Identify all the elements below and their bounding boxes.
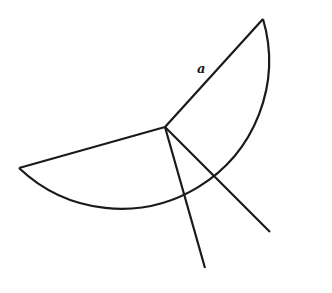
radius-left — [19, 127, 165, 168]
radius-a — [165, 19, 263, 127]
radius-label: a — [197, 61, 205, 76]
sector-diagram: a — [0, 0, 332, 293]
sector-arc — [19, 19, 269, 209]
